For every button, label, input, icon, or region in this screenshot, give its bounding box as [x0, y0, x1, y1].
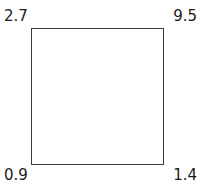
corner-label-top-right: 9.5 — [173, 9, 197, 24]
corner-label-top-left: 2.7 — [4, 9, 28, 24]
diagram-canvas: 2.7 9.5 0.9 1.4 — [0, 0, 203, 191]
square-outline-shape — [31, 28, 164, 165]
corner-label-bottom-left: 0.9 — [4, 168, 28, 183]
corner-label-bottom-right: 1.4 — [173, 168, 197, 183]
